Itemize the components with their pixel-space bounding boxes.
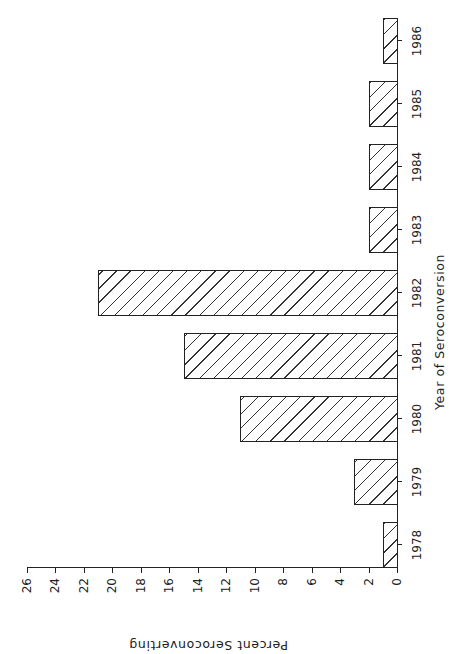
bar-1983 (369, 207, 398, 253)
y-tick-label: 0 (391, 578, 403, 608)
x-tick-mark (397, 418, 402, 419)
x-tick-label: 1984 (411, 144, 423, 190)
y-tick-mark (397, 568, 398, 573)
x-tick-mark (397, 481, 402, 482)
y-tick-label: 8 (277, 578, 289, 608)
y-tick-label: 6 (306, 578, 318, 608)
chart-frame: 02468101214161820222426 1978197919801981… (0, 0, 450, 654)
y-tick-label: 26 (21, 578, 33, 608)
x-tick-label: 1983 (411, 207, 423, 253)
y-tick-label: 14 (192, 578, 204, 608)
y-tick-label: 12 (220, 578, 232, 608)
y-tick-label: 2 (363, 578, 375, 608)
x-tick-label: 1985 (411, 81, 423, 127)
y-tick-label: 22 (78, 578, 90, 608)
y-tick-mark (84, 568, 85, 573)
y-tick-mark (55, 568, 56, 573)
y-tick-mark (112, 568, 113, 573)
x-axis-title: Year of Seroconversion (433, 254, 447, 410)
bar-1981 (184, 333, 398, 379)
x-tick-mark (397, 40, 402, 41)
bar-1980 (240, 396, 398, 442)
bar-1984 (369, 144, 398, 190)
x-tick-mark (397, 103, 402, 104)
x-tick-mark (397, 544, 402, 545)
bar-1985 (369, 81, 398, 127)
x-tick-mark (397, 355, 402, 356)
y-tick-mark (198, 568, 199, 573)
y-tick-label: 4 (334, 578, 346, 608)
y-tick-mark (340, 568, 341, 573)
y-tick-label: 10 (249, 578, 261, 608)
y-tick-label: 16 (163, 578, 175, 608)
bar-1986 (383, 18, 398, 64)
y-tick-mark (255, 568, 256, 573)
y-tick-mark (312, 568, 313, 573)
y-tick-mark (169, 568, 170, 573)
y-tick-label: 24 (49, 578, 61, 608)
x-tick-mark (397, 229, 402, 230)
y-tick-mark (226, 568, 227, 573)
bar-1979 (354, 459, 398, 505)
x-tick-label: 1982 (411, 270, 423, 316)
y-tick-label: 20 (106, 578, 118, 608)
y-axis-line (27, 567, 398, 568)
y-axis-title: Percent Seroconverting (136, 638, 288, 652)
x-tick-label: 1981 (411, 333, 423, 379)
bar-1982 (98, 270, 398, 316)
x-tick-label: 1978 (411, 522, 423, 568)
x-tick-mark (397, 166, 402, 167)
x-tick-label: 1980 (411, 396, 423, 442)
y-tick-label: 18 (135, 578, 147, 608)
y-tick-mark (141, 568, 142, 573)
y-tick-mark (283, 568, 284, 573)
y-tick-mark (27, 568, 28, 573)
x-tick-mark (397, 292, 402, 293)
x-tick-label: 1986 (411, 18, 423, 64)
y-tick-mark (369, 568, 370, 573)
bar-1978 (383, 522, 398, 568)
x-tick-label: 1979 (411, 459, 423, 505)
